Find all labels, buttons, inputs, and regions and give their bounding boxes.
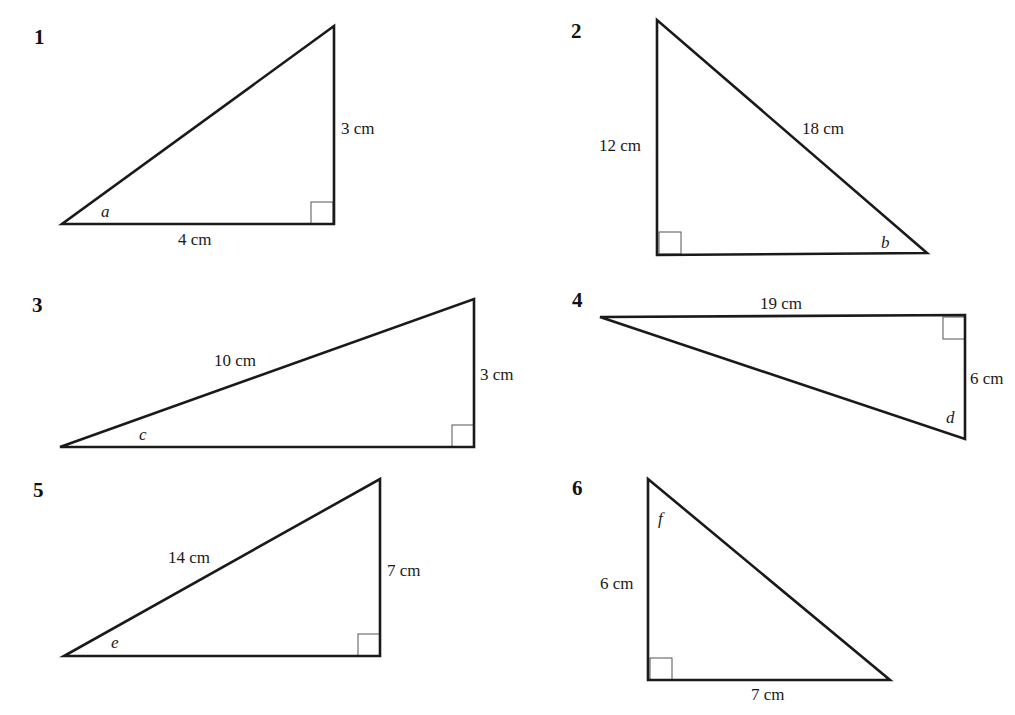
figure-4: 419 cm6 cmd <box>572 288 1004 439</box>
right-triangle <box>60 299 474 447</box>
right-angle-marker <box>659 232 681 254</box>
side-length-label: 19 cm <box>760 294 802 313</box>
figure-number: 2 <box>571 19 582 43</box>
side-length-label: 12 cm <box>599 136 641 155</box>
right-angle-marker <box>452 425 474 447</box>
right-angle-marker <box>311 202 333 224</box>
side-length-label: 18 cm <box>802 119 844 138</box>
right-angle-marker <box>943 317 965 339</box>
figure-6: 66 cm7 cmf <box>572 476 890 704</box>
right-triangle <box>62 26 334 224</box>
right-triangle <box>648 479 890 680</box>
figure-3: 310 cm3 cmc <box>32 293 514 447</box>
side-length-label: 6 cm <box>600 574 634 593</box>
angle-label: c <box>139 425 147 444</box>
figure-1: 13 cm4 cma <box>34 25 375 249</box>
figure-number: 1 <box>34 25 45 49</box>
angle-label: a <box>101 202 110 221</box>
right-triangle <box>64 479 380 656</box>
side-length-label: 7 cm <box>387 561 421 580</box>
figure-5: 514 cm7 cme <box>33 478 421 656</box>
right-angle-marker <box>650 658 672 680</box>
side-length-label: 14 cm <box>168 548 210 567</box>
side-length-label: 10 cm <box>214 351 256 370</box>
figure-2: 212 cm18 cmb <box>571 19 927 255</box>
angle-label: b <box>881 233 890 252</box>
triangle-exercise-canvas: 13 cm4 cma212 cm18 cmb310 cm3 cmc419 cm6… <box>0 0 1015 715</box>
angle-label: d <box>946 408 955 427</box>
angle-label: f <box>658 509 665 528</box>
side-length-label: 3 cm <box>341 119 375 138</box>
figure-number: 5 <box>33 478 44 502</box>
figure-number: 4 <box>572 288 583 312</box>
figure-number: 6 <box>572 476 583 500</box>
side-length-label: 3 cm <box>480 365 514 384</box>
side-length-label: 6 cm <box>970 369 1004 388</box>
angle-label: e <box>111 633 119 652</box>
side-length-label: 7 cm <box>751 685 785 704</box>
figure-number: 3 <box>32 293 43 317</box>
right-triangle <box>657 20 927 255</box>
right-angle-marker <box>358 634 380 656</box>
right-triangle <box>600 315 965 439</box>
side-length-label: 4 cm <box>178 230 212 249</box>
